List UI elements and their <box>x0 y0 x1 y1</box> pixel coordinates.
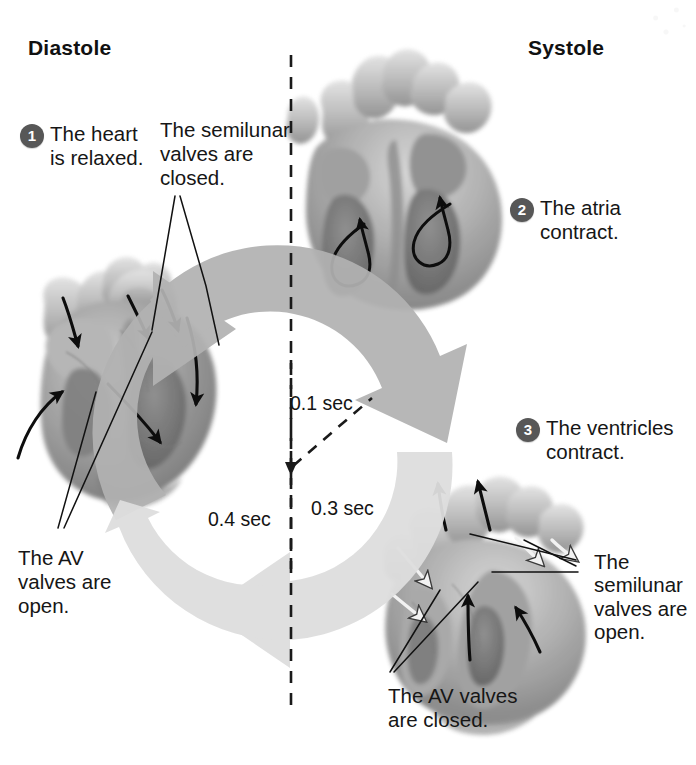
callout-av-closed: The AV valves are closed. <box>388 684 602 732</box>
step-3: 3 The ventricles contract. <box>516 416 694 464</box>
step-1-badge: 1 <box>20 124 44 148</box>
step-3-label: The ventricles contract. <box>546 416 674 464</box>
step-2: 2 The atria contract. <box>510 196 680 244</box>
timing-0-3-sec: 0.3 sec <box>311 497 374 520</box>
step-1-label: The heart is relaxed. <box>50 122 143 170</box>
step-1: 1 The heart is relaxed. <box>20 122 170 170</box>
heading-systole: Systole <box>528 36 604 60</box>
scan-artifact <box>640 2 692 42</box>
cardiac-cycle-diagram: Diastole Systole 1 The heart is relaxed.… <box>0 0 696 765</box>
step-3-badge: 3 <box>516 418 540 442</box>
labels-layer: Diastole Systole 1 The heart is relaxed.… <box>0 0 696 765</box>
callout-semilunar-open: The semilunar valves are open. <box>594 550 694 643</box>
heading-diastole: Diastole <box>28 36 111 60</box>
step-2-label: The atria contract. <box>540 196 621 244</box>
timing-0-4-sec: 0.4 sec <box>208 508 271 531</box>
step-2-badge: 2 <box>510 198 534 222</box>
timing-0-1-sec: 0.1 sec <box>290 392 353 415</box>
callout-semilunar-closed: The semilunar valves are closed. <box>160 118 308 189</box>
callout-av-open: The AV valves are open. <box>18 546 148 617</box>
